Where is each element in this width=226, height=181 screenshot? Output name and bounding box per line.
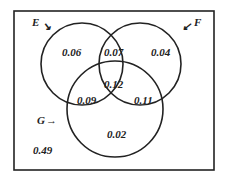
region-e-f-g: 0.12 [104, 78, 124, 90]
region-outside: 0.49 [33, 144, 53, 156]
set-e-arrow-icon: ↘ [42, 20, 51, 32]
set-g-arrow-icon: → [46, 114, 57, 126]
venn-diagram: E ↘ ↙ F G → 0.06 0.07 0.04 0.12 0.09 0.1… [0, 0, 226, 181]
region-f-only: 0.04 [151, 46, 171, 58]
region-e-only: 0.06 [62, 46, 82, 58]
set-g-circle [67, 61, 163, 157]
set-g-label: G [37, 114, 45, 126]
region-e-f: 0.07 [104, 46, 124, 58]
region-g-only: 0.02 [107, 128, 127, 140]
set-e-label: E [31, 16, 39, 28]
set-f-circle [99, 23, 181, 105]
region-e-g: 0.09 [77, 94, 97, 106]
set-f-arrow-icon: ↙ [182, 20, 192, 32]
region-f-g: 0.11 [134, 94, 153, 106]
set-f-label: F [193, 16, 202, 28]
